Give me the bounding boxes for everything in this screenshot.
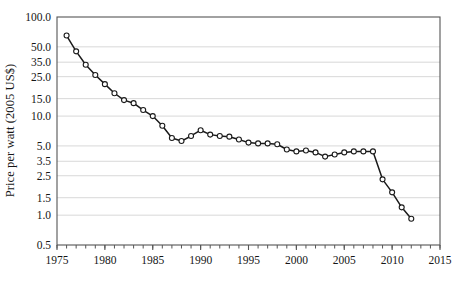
x-tick-label: 1990 [189, 254, 212, 266]
y-tick-label: 0.5 [37, 239, 52, 251]
data-point-marker [275, 142, 280, 147]
data-point-marker [332, 152, 337, 157]
data-point-marker [83, 62, 88, 67]
data-point-marker [284, 147, 289, 152]
data-markers-group [64, 33, 414, 221]
x-tick-label: 1985 [141, 254, 164, 266]
data-point-marker [208, 132, 213, 137]
data-point-marker [227, 134, 232, 139]
data-point-marker [399, 205, 404, 210]
data-point-marker [342, 150, 347, 155]
data-point-marker [169, 136, 174, 141]
x-tick-label: 1975 [46, 254, 69, 266]
line-chart: 100.050.035.025.015.010.05.03.52.51.51.0… [0, 0, 459, 284]
data-point-marker [102, 82, 107, 87]
x-tick-label: 2010 [381, 254, 404, 266]
data-point-marker [380, 177, 385, 182]
data-point-marker [122, 98, 127, 103]
x-tick-label: 2015 [429, 254, 452, 266]
y-tick-label: 100.0 [25, 11, 51, 23]
series-line [67, 36, 412, 219]
data-point-marker [64, 33, 69, 38]
y-tick-label: 2.5 [37, 170, 52, 182]
data-point-marker [141, 108, 146, 113]
data-point-marker [246, 140, 251, 145]
data-point-marker [313, 150, 318, 155]
data-point-marker [323, 154, 328, 159]
y-tick-label: 3.5 [37, 155, 52, 167]
y-tick-label: 1.5 [37, 192, 52, 204]
data-point-marker [150, 114, 155, 119]
data-point-marker [294, 149, 299, 154]
data-point-marker [112, 91, 117, 96]
y-tick-label: 10.0 [31, 110, 51, 122]
x-tick-label: 2005 [333, 254, 356, 266]
y-tick-label: 1.0 [37, 209, 52, 221]
data-point-marker [370, 149, 375, 154]
plot-border [57, 17, 440, 245]
data-point-marker [303, 148, 308, 153]
data-point-marker [390, 190, 395, 195]
data-point-marker [189, 133, 194, 138]
data-point-marker [131, 101, 136, 106]
data-point-marker [361, 149, 366, 154]
data-point-marker [198, 128, 203, 133]
data-point-marker [160, 123, 165, 128]
data-point-marker [256, 141, 261, 146]
data-point-marker [409, 216, 414, 221]
data-point-marker [236, 137, 241, 142]
data-line-group [67, 36, 412, 219]
data-point-marker [351, 149, 356, 154]
x-tick-label: 1980 [93, 254, 116, 266]
plot-frame [57, 17, 440, 245]
data-point-marker [265, 141, 270, 146]
y-tick-label: 35.0 [31, 56, 51, 68]
data-point-marker [179, 139, 184, 144]
y-tick-label: 15.0 [31, 93, 51, 105]
y-tick-label: 50.0 [31, 41, 51, 53]
gridlines-group [57, 47, 440, 215]
y-tick-label: 5.0 [37, 140, 52, 152]
data-point-marker [74, 49, 79, 54]
x-tick-label: 2000 [285, 254, 308, 266]
x-tick-labels-group: 197519801985199019952000200520102015 [46, 254, 452, 266]
data-point-marker [93, 72, 98, 77]
y-tick-labels-group: 100.050.035.025.015.010.05.03.52.51.51.0… [25, 11, 51, 251]
x-tick-label: 1995 [237, 254, 260, 266]
y-tick-label: 25.0 [31, 71, 51, 83]
data-point-marker [217, 133, 222, 138]
chart-figure: Price per watt (2005 US$) 100.050.035.02… [0, 0, 459, 284]
